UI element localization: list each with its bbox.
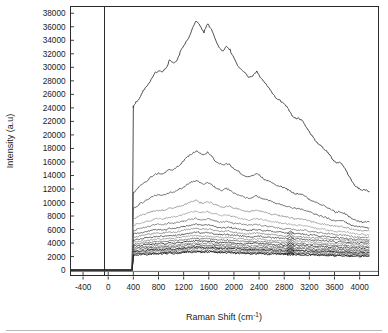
y-tick-label: 10000: [43, 199, 66, 208]
y-axis-title: Intensity (a.u): [5, 114, 15, 169]
raman-spectra-plot: -400040080012001600200024002800320036004…: [0, 0, 388, 333]
y-tick-label: 22000: [43, 117, 66, 126]
y-tick-label: 32000: [43, 50, 66, 59]
x-tick-label: 2800: [275, 283, 294, 292]
y-tick-label: 34000: [43, 36, 66, 45]
x-tick-label: -400: [75, 283, 92, 292]
x-tick-label: 3200: [300, 283, 319, 292]
y-tick-label: 4000: [47, 239, 66, 248]
y-tick-label: 20000: [43, 131, 66, 140]
x-tick-label: 1200: [175, 283, 194, 292]
y-tick-label: 2000: [47, 253, 66, 262]
y-tick-label: 26000: [43, 90, 66, 99]
y-tick-label: 0: [61, 266, 66, 275]
y-tick-label: 16000: [43, 158, 66, 167]
x-tick-label: 400: [127, 283, 141, 292]
x-tick-label: 3600: [325, 283, 344, 292]
y-tick-label: 6000: [47, 226, 66, 235]
raman-spectra-figure: -400040080012001600200024002800320036004…: [0, 0, 388, 333]
x-tick-label: 800: [152, 283, 166, 292]
x-tick-label: 2000: [225, 283, 244, 292]
y-tick-label: 38000: [43, 9, 66, 18]
x-tick-label: 1600: [200, 283, 219, 292]
x-tick-label: 0: [106, 283, 111, 292]
x-axis-title: Raman Shift (cm-1): [186, 311, 262, 323]
x-tick-label: 4000: [351, 283, 370, 292]
y-tick-label: 14000: [43, 171, 66, 180]
y-tick-label: 12000: [43, 185, 66, 194]
y-tick-label: 30000: [43, 63, 66, 72]
x-tick-label: 2400: [250, 283, 269, 292]
y-tick-label: 24000: [43, 104, 66, 113]
y-tick-label: 36000: [43, 23, 66, 32]
y-tick-label: 8000: [47, 212, 66, 221]
y-tick-label: 28000: [43, 77, 66, 86]
y-tick-label: 18000: [43, 144, 66, 153]
